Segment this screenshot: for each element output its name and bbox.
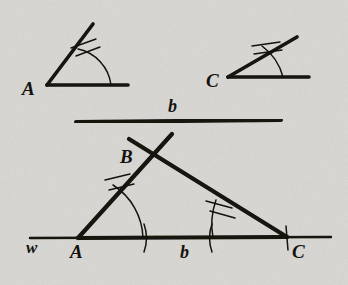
triangle-vertex-b-label: B — [119, 146, 133, 167]
triangle-side-b-label: b — [180, 242, 189, 262]
triangle-baseline-label-w: w — [26, 238, 38, 257]
given-segment-b-group — [76, 120, 281, 122]
given-segment-b-line — [76, 120, 281, 122]
construction-drawing-canvas: A C b — [0, 0, 348, 285]
given-segment-b-label: b — [168, 96, 177, 116]
triangle-vertex-a-label: A — [69, 241, 83, 262]
triangle-vertex-c-label: C — [292, 241, 305, 262]
given-angle-c-vertex-label: C — [206, 70, 219, 91]
given-angle-a-vertex-label: A — [21, 78, 35, 99]
geometric-construction-figure: A C b — [0, 0, 348, 285]
triangle-side-ac-base — [78, 237, 287, 238]
